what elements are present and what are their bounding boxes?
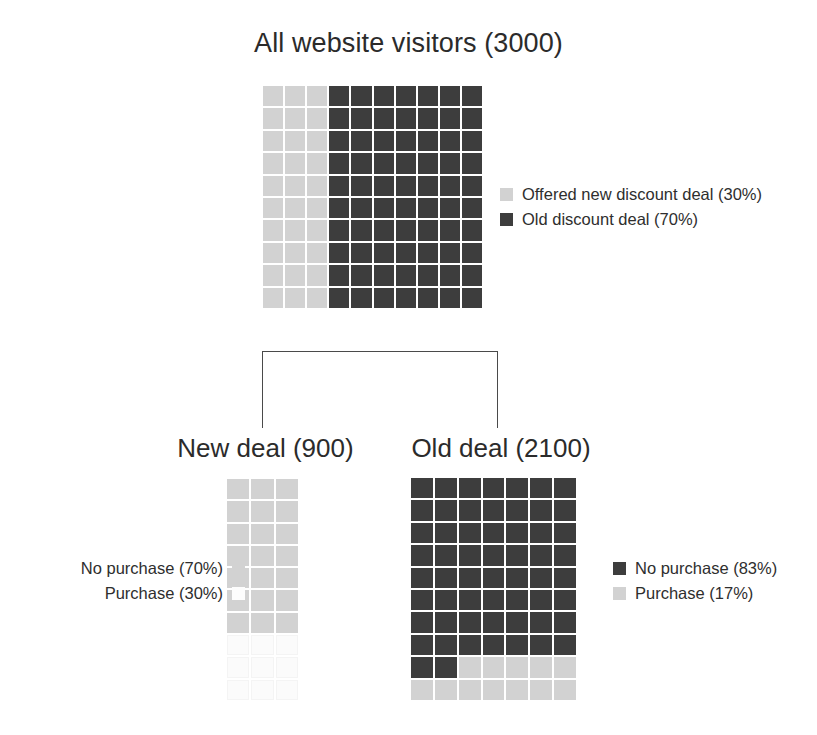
waffle-cell [351, 198, 371, 218]
waffle-cell [506, 612, 528, 632]
waffle-cell [459, 500, 481, 520]
waffle-cell [418, 131, 438, 151]
waffle-cell [307, 86, 327, 106]
waffle-cell [307, 108, 327, 128]
waffle-cell [263, 131, 283, 151]
waffle-cell [506, 523, 528, 543]
waffle-cell [396, 108, 416, 128]
waffle-cell [554, 478, 576, 498]
waffle-cell [396, 220, 416, 240]
waffle-cell [462, 198, 482, 218]
waffle-cell [530, 523, 552, 543]
waffle-cell [530, 590, 552, 610]
waffle-cell [351, 153, 371, 173]
waffle-cell [418, 288, 438, 308]
waffle-cell [435, 635, 457, 655]
waffle-cell [411, 500, 433, 520]
waffle-cell [418, 243, 438, 263]
legend-item-no-purchase: No purchase (70%) [0, 558, 245, 578]
waffle-cell [285, 198, 305, 218]
legend-item-label: Offered new discount deal (30%) [522, 185, 762, 204]
waffle-cell [351, 243, 371, 263]
white-swatch-icon [232, 587, 245, 600]
waffle-cell [435, 545, 457, 565]
waffle-cell [396, 288, 416, 308]
waffle-cell [329, 131, 349, 151]
waffle-cell [483, 657, 505, 677]
waffle-cell [462, 176, 482, 196]
waffle-cell [506, 590, 528, 610]
waffle-cell [459, 680, 481, 700]
waffle-cell [440, 176, 460, 196]
waffle-cell [251, 657, 273, 677]
waffle-cell [374, 86, 394, 106]
waffle-cell [263, 220, 283, 240]
waffle-cell [263, 265, 283, 285]
waffle-cell [285, 131, 305, 151]
waffle-cell [251, 546, 273, 566]
waffle-cell [227, 680, 249, 700]
waffle-cell [411, 523, 433, 543]
waffle-cell [351, 131, 371, 151]
waffle-cell [351, 176, 371, 196]
waffle-cell [506, 657, 528, 677]
waffle-cell [530, 635, 552, 655]
waffle-cell [418, 176, 438, 196]
waffle-cell [263, 153, 283, 173]
waffle-cell [459, 635, 481, 655]
waffle-cell [329, 108, 349, 128]
waffle-cell [307, 198, 327, 218]
waffle-cell [554, 590, 576, 610]
legend-item-old-deal: Old discount deal (70%) [500, 209, 762, 229]
waffle-cell [329, 176, 349, 196]
waffle-cell [396, 198, 416, 218]
waffle-cell [251, 590, 273, 610]
waffle-cell [483, 523, 505, 543]
waffle-cell [251, 479, 273, 499]
waffle-cell [418, 108, 438, 128]
waffle-cell [459, 545, 481, 565]
waffle-cell [530, 680, 552, 700]
waffle-cell [374, 220, 394, 240]
waffle-cell [276, 568, 298, 588]
waffle-cell [374, 198, 394, 218]
waffle-cell [396, 176, 416, 196]
legend-item-no-purchase: No purchase (83%) [613, 558, 777, 578]
waffle-cell [329, 153, 349, 173]
waffle-cell [307, 131, 327, 151]
waffle-cell [263, 176, 283, 196]
waffle-cell [462, 108, 482, 128]
waffle-cell [530, 478, 552, 498]
waffle-cell [285, 86, 305, 106]
waffle-cell [227, 657, 249, 677]
waffle-cell [307, 153, 327, 173]
waffle-cell [554, 635, 576, 655]
waffle-cell [483, 545, 505, 565]
waffle-cell [554, 500, 576, 520]
waffle-cell [435, 523, 457, 543]
waffle-cell [374, 153, 394, 173]
waffle-cell [251, 613, 273, 633]
waffle-cell [285, 153, 305, 173]
legend-item-label: Purchase (17%) [635, 584, 753, 603]
waffle-cell [374, 243, 394, 263]
waffle-cell [483, 478, 505, 498]
waffle-cell [227, 635, 249, 655]
waffle-cell [276, 524, 298, 544]
legend-all-visitors: Offered new discount deal (30%) Old disc… [500, 184, 762, 234]
waffle-cell [374, 108, 394, 128]
waffle-cell [483, 680, 505, 700]
waffle-cell [251, 635, 273, 655]
waffle-cell [307, 176, 327, 196]
waffle-cell [418, 153, 438, 173]
waffle-cell [506, 545, 528, 565]
waffle-cell [276, 501, 298, 521]
waffle-cell [462, 243, 482, 263]
waffle-cell [459, 612, 481, 632]
panel-title-new-deal: New deal (900) [163, 433, 368, 464]
waffle-cell [285, 243, 305, 263]
waffle-cell [418, 220, 438, 240]
waffle-cell [530, 657, 552, 677]
waffle-cell [307, 265, 327, 285]
waffle-cell [462, 288, 482, 308]
